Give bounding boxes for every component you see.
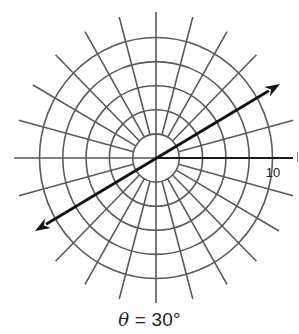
spoke-285deg: [162, 181, 193, 299]
polar-grid-figure: 10: [0, 0, 299, 334]
theta-symbol: θ: [118, 309, 129, 330]
arrowhead-upper-right-icon: [264, 84, 280, 96]
arrowhead-lower-left-icon: [35, 219, 51, 231]
spoke-165deg: [19, 120, 134, 152]
spoke-195deg: [19, 164, 134, 196]
spoke-255deg: [119, 181, 150, 299]
radial-label-10: 10: [266, 165, 280, 180]
spoke-75deg: [162, 17, 193, 135]
caption-value: = 30°: [129, 309, 181, 330]
spoke-105deg: [119, 17, 150, 135]
figure-caption: θ = 30°: [0, 309, 299, 331]
